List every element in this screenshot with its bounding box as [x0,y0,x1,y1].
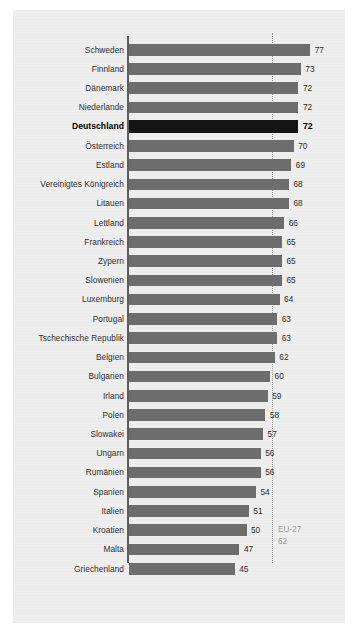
bar-value-label: 64 [284,293,293,305]
bar-row: Zypern65 [0,255,356,274]
bar-row: Polen58 [0,409,356,428]
bar [129,313,278,325]
bar [129,82,299,94]
bar-value-label: 68 [293,197,302,209]
bar [129,63,301,75]
category-label: Litauen [96,197,124,209]
bar-row: Ungarn56 [0,447,356,466]
bar [129,294,280,306]
bar-value-label: 65 [286,236,295,248]
category-label: Luxemburg [82,293,124,305]
bar [129,409,266,421]
bar-value-label: 58 [270,409,279,421]
bar-value-label: 47 [244,543,253,555]
bar-value-label: 59 [272,390,281,402]
bar [129,505,249,517]
category-label: Belgien [96,351,124,363]
category-label: Dänemark [85,82,124,94]
bar-row: Bulgarien60 [0,370,356,389]
bar-row: Slowenien65 [0,274,356,293]
bar [129,448,261,460]
bar-value-label: 68 [293,178,302,190]
category-label: Portugal [93,313,124,325]
bar-row: Frankreich65 [0,236,356,255]
bar-value-label: 56 [265,447,274,459]
bar-row: Irland59 [0,390,356,409]
category-label: Estland [96,159,124,171]
bar-row: Luxemburg64 [0,293,356,312]
bar [129,159,292,171]
bar [129,332,278,344]
bar-row: Deutschland72 [0,120,356,139]
category-label: Zypern [98,255,124,267]
category-label: Polen [103,409,124,421]
bar [129,563,235,575]
bar-row: Griechenland45 [0,563,356,582]
category-label: Rumänien [86,466,124,478]
category-label: Slowenien [85,274,124,286]
bar-value-label: 72 [303,101,312,113]
category-label: Bulgarien [88,370,124,382]
bar-row: Tschechische Republik63 [0,332,356,351]
bar [129,371,271,383]
bar-row: Schweden77 [0,44,356,63]
bar-row: Österreich70 [0,140,356,159]
bar-row: Vereinigtes Königreich68 [0,178,356,197]
bar-row: Dänemark72 [0,82,356,101]
category-label: Spanien [93,486,124,498]
category-label: Vereinigtes Königreich [40,178,124,190]
bar [129,44,311,56]
bar-value-label: 63 [282,332,291,344]
bar [129,198,289,210]
category-label: Niederlande [79,101,124,113]
category-label: Österreich [85,140,124,152]
category-label: Kroatien [93,524,124,536]
bar [129,140,294,152]
bar-row: Malta47 [0,543,356,562]
bar-value-label: 57 [268,428,277,440]
bar-value-label: 63 [282,313,291,325]
bar-value-label: 77 [315,44,324,56]
bar [129,390,268,402]
bar [129,352,275,364]
bar-value-label: 45 [239,563,248,575]
category-label: Malta [103,543,124,555]
bar-value-label: 62 [279,351,288,363]
bar [129,217,285,229]
bar [129,236,282,248]
horizontal-bar-chart: Schweden77Finnland73Dänemark72Niederland… [0,0,356,633]
bar-row: Belgien62 [0,351,356,370]
category-label: Irland [103,390,124,402]
bar-value-label: 51 [253,505,262,517]
category-label: Ungarn [96,447,124,459]
bar-value-label: 65 [286,274,295,286]
bar-value-label: 50 [251,524,260,536]
bar-row: Finnland73 [0,63,356,82]
bar-value-label: 66 [289,217,298,229]
bar-row: Portugal63 [0,313,356,332]
bar [129,255,282,267]
bar-row: Spanien54 [0,486,356,505]
bar-row: Litauen68 [0,197,356,216]
chart-page: Schweden77Finnland73Dänemark72Niederland… [0,0,356,633]
bar-value-label: 60 [275,370,284,382]
category-label: Tschechische Republik [39,332,124,344]
bar [129,179,289,191]
bar-row: Niederlande72 [0,101,356,120]
bar-row: Lettland66 [0,217,356,236]
bar [129,544,240,556]
bar [129,524,247,536]
bar [129,486,256,498]
category-label: Frankreich [84,236,124,248]
bar-value-label: 72 [303,120,313,132]
bar-row: Rumänien56 [0,466,356,485]
bar-value-label: 73 [305,63,314,75]
category-label: Italien [102,505,125,517]
bar-value-label: 72 [303,82,312,94]
eu27-value: 62 [278,536,301,548]
category-label: Finnland [92,63,124,75]
eu27-label: EU-27 [278,525,301,534]
bar-row: Italien51 [0,505,356,524]
bar-row: Slowakei57 [0,428,356,447]
bar-value-label: 65 [286,255,295,267]
